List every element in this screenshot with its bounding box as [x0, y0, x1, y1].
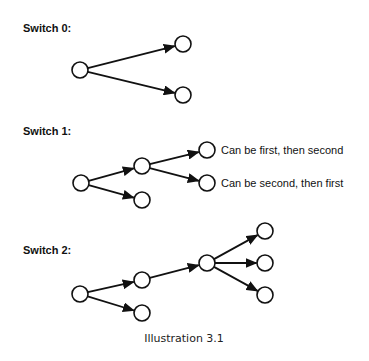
node-label: Can be first, then second — [221, 144, 343, 156]
node-label: Can be second, then first — [221, 177, 343, 189]
switch-0-title: Switch 0: — [23, 22, 71, 34]
state-node — [257, 255, 273, 271]
state-node — [134, 305, 150, 321]
arrow-edge — [89, 185, 134, 198]
arrow-edge — [89, 168, 134, 181]
arrow-edge — [214, 267, 258, 291]
state-node — [73, 175, 89, 191]
state-node — [72, 286, 88, 302]
state-node — [199, 142, 215, 158]
text-layer: Switch 0:Switch 1:Can be first, then sec… — [23, 22, 343, 256]
arrow-edge — [88, 282, 134, 292]
arrow-edge — [88, 296, 134, 310]
arrow-edge — [150, 152, 199, 164]
figure-caption: Illustration 3.1 — [144, 332, 224, 345]
switch-2-title: Switch 2: — [23, 244, 71, 256]
switch-diagram: Switch 0:Switch 1:Can be first, then sec… — [0, 0, 369, 361]
state-node — [134, 192, 150, 208]
arrow-edge — [150, 265, 199, 278]
arrow-edge — [88, 46, 175, 68]
state-node — [134, 158, 150, 174]
arrow-edge — [214, 235, 258, 259]
state-node — [257, 223, 273, 239]
state-node — [199, 255, 215, 271]
switch-1-title: Switch 1: — [23, 125, 71, 137]
arrow-edge — [88, 72, 175, 93]
state-node — [199, 175, 215, 191]
state-node — [257, 287, 273, 303]
state-node — [175, 87, 191, 103]
state-node — [72, 62, 88, 78]
arrow-edge — [150, 168, 199, 181]
state-node — [175, 36, 191, 52]
state-node — [134, 272, 150, 288]
